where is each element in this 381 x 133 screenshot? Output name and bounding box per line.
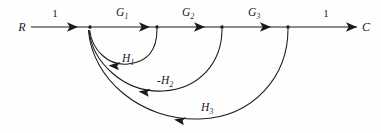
feedback-gain-h1: H1 <box>122 53 134 65</box>
feedback-gain-h3-symbol: H <box>201 101 209 113</box>
branch-gain-r-n1: 1 <box>52 8 58 19</box>
branch-gain-n1-n2-subscript: 1 <box>125 12 129 21</box>
output-node-label: C <box>362 21 370 33</box>
feedback-arc-h3 <box>88 29 288 119</box>
feedback-gain-h2-symbol: H <box>161 74 169 86</box>
branch-gain-n4-c: 1 <box>323 8 329 19</box>
branch-gain-n3-n4: G3 <box>248 7 260 19</box>
branch-gain-n2-n3: G2 <box>182 7 194 19</box>
feedback-gain-h1-subscript: 1 <box>131 58 135 67</box>
branch-gain-n3-n4-subscript: 3 <box>257 12 261 21</box>
node-dot-n2 <box>155 25 159 29</box>
arrowhead-left-h1 <box>109 62 121 70</box>
feedback-gain-h2: -H2 <box>157 75 173 87</box>
node-dot-n3 <box>220 25 224 29</box>
feedback-gain-h3-subscript: 3 <box>210 107 214 116</box>
branch-gain-n1-n2: G1 <box>116 7 128 19</box>
feedback-arrowhead-group <box>109 62 187 125</box>
input-node-label: R <box>18 21 25 33</box>
branch-gain-n2-n3-subscript: 2 <box>191 12 195 21</box>
branch-gain-n3-n4-symbol: G <box>248 6 256 18</box>
feedback-gain-h3: H3 <box>201 102 213 114</box>
node-dot-n1 <box>88 25 92 29</box>
node-dot-n4 <box>286 25 290 29</box>
feedback-arc-group <box>88 29 288 119</box>
feedback-gain-h1-symbol: H <box>122 52 130 64</box>
branch-gain-n1-n2-symbol: G <box>116 6 124 18</box>
feedback-gain-h2-subscript: 2 <box>170 80 174 89</box>
branch-gain-n2-n3-symbol: G <box>182 6 190 18</box>
arrowhead-left-h3 <box>174 117 186 125</box>
signal-flow-graph-figure: R C 1 G1 G2 G3 1 H1 -H2 H3 <box>0 0 381 133</box>
